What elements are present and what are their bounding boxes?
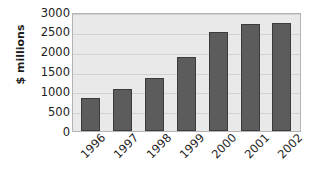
bar-2002 (272, 23, 291, 131)
bars-container (73, 14, 300, 131)
y-axis-tick-2000: 2000 (26, 47, 70, 58)
y-axis-title: $ millions (14, 9, 27, 101)
x-axis-tick-labels: 1996199719981999200020012002 (72, 133, 301, 183)
y-axis-tick-2500: 2500 (26, 27, 70, 38)
bar-1997 (113, 89, 132, 131)
bar-1998 (145, 78, 164, 131)
bar-chart: $ millions 300025002000150010005000 1996… (0, 0, 314, 183)
bar-1996 (81, 98, 100, 131)
x-axis-tick-1999: 1999 (172, 127, 210, 165)
x-axis-tick-1996: 1996 (74, 127, 112, 165)
x-axis-tick-2002: 2002 (270, 127, 308, 165)
x-axis-tick-2001: 2001 (238, 127, 276, 165)
y-axis-tick-3000: 3000 (26, 8, 70, 19)
y-axis-tick-1500: 1500 (26, 67, 70, 78)
x-axis-tick-1998: 1998 (140, 127, 178, 165)
bar-2000 (209, 32, 228, 131)
y-axis-tick-labels: 300025002000150010005000 (26, 8, 70, 132)
bar-1999 (177, 57, 196, 131)
bar-2001 (241, 24, 260, 131)
x-axis-tick-1997: 1997 (107, 127, 145, 165)
y-axis-tick-500: 500 (26, 107, 70, 118)
plot-area (72, 13, 301, 132)
y-axis-tick-1000: 1000 (26, 87, 70, 98)
x-axis-tick-2000: 2000 (205, 127, 243, 165)
y-axis-tick-0: 0 (26, 127, 70, 138)
